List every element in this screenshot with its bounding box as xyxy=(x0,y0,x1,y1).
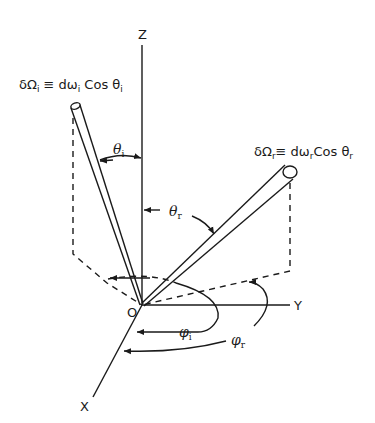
reflected-solid-angle-equation: δΩr≡ dωrCos θr xyxy=(254,145,353,161)
incident-ray-tube xyxy=(70,102,143,305)
theta-r-label: θr xyxy=(169,204,182,221)
z-axis-label: Z xyxy=(138,28,147,41)
phi-r-arc xyxy=(124,341,226,351)
x-axis-label: X xyxy=(80,400,89,413)
y-axis-label: Y xyxy=(294,299,302,312)
theta-r-arc-right xyxy=(192,216,214,234)
phi-r-label: φr xyxy=(231,333,245,350)
phi-i-arc xyxy=(137,283,218,332)
origin-label: O xyxy=(127,306,137,319)
geometry-diagram xyxy=(0,0,375,423)
theta-i-label: θi xyxy=(113,142,124,159)
incident-solid-angle-equation: δΩi ≡ dωi Cos θi xyxy=(19,78,123,94)
phi-i-label: φi xyxy=(179,325,192,342)
reflected-ray-tube xyxy=(142,165,297,306)
